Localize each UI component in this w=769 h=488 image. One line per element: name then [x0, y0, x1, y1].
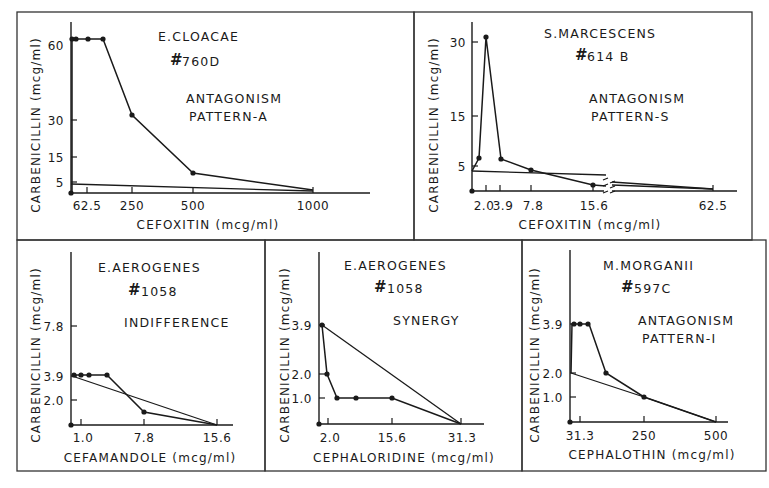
x-tick-500: 500 [181, 199, 205, 213]
y-axis-label: CARBENICILLIN (mcg/ml) [528, 267, 542, 443]
panel-s-marcescens: CARBENICILLIN (mcg/ml) 30 15 5 2.0 3.9 7… [427, 22, 737, 232]
organism-label: E.CLOACAE [158, 29, 239, 44]
strain-hash: # [621, 278, 634, 296]
y-tick-2-0: 2.0 [291, 368, 312, 382]
x-tick-31-3: 31.3 [448, 431, 477, 445]
organism-label: S.MARCESCENS [544, 26, 656, 41]
y-tick-15: 15 [48, 151, 64, 165]
strain-label: 760D [182, 54, 220, 69]
additivity-line [322, 325, 461, 424]
pattern-label-1: ANTAGONISM [186, 91, 282, 106]
y-tick-60: 60 [48, 39, 64, 53]
x-tick-62-5: 62.5 [73, 199, 102, 213]
y-tick-1-0: 1.0 [542, 391, 563, 405]
x-tick-31-3: 31.3 [566, 429, 595, 443]
panel-e-aerogenes-synergy: CARBENICILLIN (mcg/ml) 3.9 2.0 1.0 2.0 1… [278, 252, 495, 465]
y-axis-label: CARBENICILLIN (mcg/ml) [29, 267, 43, 443]
pattern-label-1: INDIFFERENCE [124, 315, 230, 330]
y-tick-2-0: 2.0 [43, 394, 64, 408]
x-tick-15-6: 15.6 [203, 431, 232, 445]
y-tick-2-0: 2.0 [542, 367, 563, 381]
x-tick-15-6: 15.6 [580, 199, 609, 213]
x-tick-62-5: 62.5 [699, 199, 728, 213]
organism-label: M.MORGANII [603, 258, 694, 273]
x-axis-label: CEFOXITIN (mcg/ml) [137, 218, 280, 232]
isobologram-figure: CARBENICILLIN (mcg/ml) 60 30 15 5 62.5 2… [0, 0, 769, 488]
organism-label: E.AEROGENES [344, 258, 447, 273]
strain-label: 1058 [141, 284, 178, 299]
pattern-label-1: SYNERGY [393, 313, 460, 328]
data-points [567, 321, 646, 424]
panel-m-morganii: CARBENICILLIN (mcg/ml) 3.9 2.0 1.0 31.3 … [528, 250, 736, 462]
x-axis-label: CEFOXITIN (mcg/ml) [519, 218, 662, 232]
x-tick-2-0: 2.0 [320, 431, 341, 445]
data-points [68, 372, 146, 427]
x-axis-label: CEPHALOTHIN (mcg/ml) [568, 448, 735, 462]
strain-hash: # [128, 281, 141, 299]
x-tick-15-6: 15.6 [378, 431, 407, 445]
strain-hash: # [575, 46, 588, 64]
x-tick-1000: 1000 [297, 199, 330, 213]
y-tick-5: 5 [56, 176, 64, 190]
y-tick-3-9: 3.9 [43, 370, 64, 384]
y-tick-1-0: 1.0 [291, 392, 312, 406]
strain-label: 1058 [387, 281, 424, 296]
x-tick-7-8: 7.8 [523, 199, 544, 213]
y-tick-15: 15 [450, 110, 466, 124]
strain-hash: # [374, 278, 387, 296]
strain-hash: # [170, 51, 183, 69]
y-axis-label: CARBENICILLIN (mcg/ml) [427, 37, 441, 213]
x-tick-3-9: 3.9 [493, 199, 514, 213]
data-points [316, 322, 394, 426]
panel-e-cloacae: CARBENICILLIN (mcg/ml) 60 30 15 5 62.5 2… [29, 22, 370, 232]
strain-label: 614 B [587, 49, 629, 64]
y-tick-3-9: 3.9 [542, 318, 563, 332]
additivity-line [72, 376, 217, 425]
x-tick-1-0: 1.0 [73, 431, 94, 445]
x-tick-250: 250 [632, 429, 656, 443]
y-tick-30: 30 [450, 36, 466, 50]
x-tick-2-0: 2.0 [474, 199, 495, 213]
y-tick-7-8: 7.8 [43, 320, 64, 334]
panel-e-aerogenes-indifference: CARBENICILLIN (mcg/ml) 7.8 3.9 2.0 1.0 7… [29, 252, 236, 465]
panel-frames [17, 12, 766, 471]
y-axis-label: CARBENICILLIN (mcg/ml) [278, 267, 292, 443]
strain-label: 597C [634, 281, 671, 296]
x-tick-250: 250 [120, 199, 144, 213]
x-tick-500: 500 [704, 429, 728, 443]
pattern-label-2: PATTERN-I [642, 331, 716, 346]
x-tick-7-8: 7.8 [134, 431, 155, 445]
pattern-label-2: PATTERN-S [591, 109, 670, 124]
y-tick-30: 30 [48, 114, 64, 128]
y-tick-5: 5 [458, 160, 466, 174]
organism-label: E.AEROGENES [98, 260, 201, 275]
y-tick-3-9: 3.9 [291, 319, 312, 333]
pattern-label-1: ANTAGONISM [638, 313, 734, 328]
pattern-label-1: ANTAGONISM [589, 91, 685, 106]
x-axis-label: CEFAMANDOLE (mcg/ml) [64, 451, 237, 465]
pattern-label-2: PATTERN-A [189, 109, 268, 124]
x-axis-label: CEPHALORIDINE (mcg/ml) [313, 451, 495, 465]
y-axis-label: CARBENICILLIN (mcg/ml) [29, 37, 43, 213]
